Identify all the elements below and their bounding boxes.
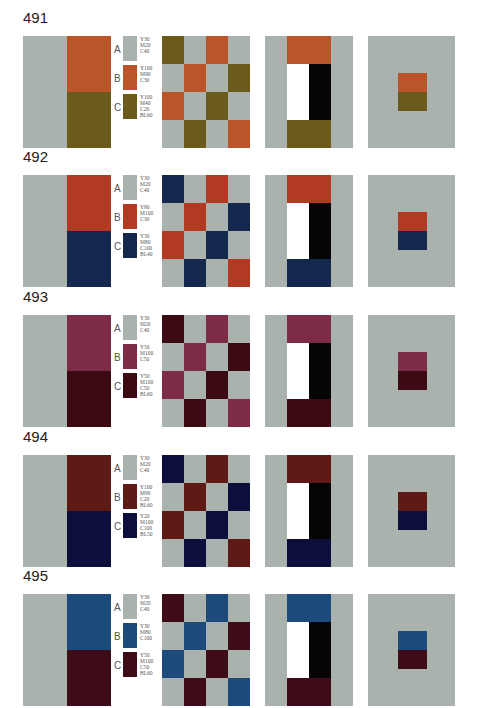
checker-cell-b <box>206 594 228 622</box>
black-block <box>309 343 331 399</box>
legend-row-c: C Y50 M100 C50 BL60 <box>114 652 162 680</box>
color-b-block <box>67 315 111 371</box>
checker-cell-a <box>184 92 206 120</box>
checker-cell-a <box>184 315 206 343</box>
legend-spec: Y100 M90 C20 BL60 <box>140 484 153 508</box>
color-c-block <box>67 511 111 567</box>
checker-cell-a <box>162 622 184 650</box>
legend-row-b: B Y30 M80 C100 <box>114 623 162 651</box>
legend-letter: A <box>114 44 122 55</box>
legend-swatch <box>123 484 137 509</box>
color-b-block <box>398 212 427 231</box>
color-b-block <box>287 455 331 483</box>
legend-letter: A <box>114 323 122 334</box>
checker-cell-c <box>206 511 228 539</box>
black-block <box>309 622 331 678</box>
checker-cell-a <box>228 650 250 678</box>
legend-letter: B <box>114 492 122 503</box>
legend-row-a: A Y30 M20 C40 <box>114 36 162 64</box>
checker-cell-c <box>206 650 228 678</box>
checker-cell-b <box>184 343 206 371</box>
checker-cell-a <box>184 175 206 203</box>
color-b-block <box>398 492 427 511</box>
legend-letter: B <box>114 212 122 223</box>
checker-cell-c <box>206 92 228 120</box>
checker-cell-a <box>162 539 184 567</box>
legend-spec: Y30 M20 C40 <box>140 36 150 54</box>
checker-cell-a <box>206 64 228 92</box>
checker-cell-b <box>228 259 250 287</box>
legend-row-b: B Y100 M90 C30 <box>114 65 162 93</box>
plate-number: 493 <box>23 289 48 305</box>
color-b-block <box>67 175 111 231</box>
center-panel <box>368 455 455 567</box>
white-block <box>287 343 309 399</box>
checker-cell-a <box>206 120 228 148</box>
legend-swatch <box>123 344 137 369</box>
checkerboard-panel <box>162 594 250 706</box>
black-block <box>309 203 331 259</box>
color-c-block <box>287 539 331 567</box>
legend-spec: Y30 M20 C40 <box>140 315 150 333</box>
split-panel <box>23 315 111 427</box>
checker-cell-b <box>206 455 228 483</box>
color-b-block <box>287 36 331 64</box>
checker-cell-c <box>184 120 206 148</box>
legend-row-a: A Y30 M20 C40 <box>114 455 162 483</box>
legend-row-c: C Y100 M40 C20 BL60 <box>114 94 162 122</box>
plate-number: 492 <box>23 149 48 165</box>
legend-letter: B <box>114 352 122 363</box>
center-panel <box>368 36 455 148</box>
frame-panel <box>265 594 353 706</box>
legend-swatch <box>123 315 137 340</box>
checker-cell-b <box>206 36 228 64</box>
color-c-block <box>398 650 427 669</box>
white-block <box>287 64 309 120</box>
checkerboard-panel <box>162 175 250 287</box>
checker-cell-a <box>184 36 206 64</box>
legend-letter: B <box>114 73 122 84</box>
checker-cell-b <box>184 203 206 231</box>
checker-cell-b <box>228 120 250 148</box>
legend-row-a: A Y30 M20 C40 <box>114 315 162 343</box>
black-block <box>309 483 331 539</box>
center-panel <box>368 315 455 427</box>
color-c-block <box>67 231 111 287</box>
checker-cell-a <box>162 678 184 706</box>
frame-panel <box>265 455 353 567</box>
color-b-block <box>287 594 331 622</box>
legend-spec: Y30 M20 C40 <box>140 455 150 473</box>
plate-section-495: 495 A Y30 M20 C40 B Y30 M80 C100 C Y50 M… <box>0 568 477 708</box>
checker-cell-a <box>184 455 206 483</box>
legend-letter: C <box>114 660 122 671</box>
frame-panel <box>265 175 353 287</box>
checker-cell-b <box>206 175 228 203</box>
checker-cell-c <box>162 455 184 483</box>
checker-cell-a <box>184 650 206 678</box>
checker-cell-c <box>162 594 184 622</box>
checkerboard-panel <box>162 455 250 567</box>
checker-cell-a <box>184 231 206 259</box>
checker-cell-c <box>184 399 206 427</box>
checker-cell-a <box>184 371 206 399</box>
color-c-block <box>287 120 331 148</box>
checker-cell-b <box>228 678 250 706</box>
checker-cell-b <box>228 399 250 427</box>
legend-spec: Y30 M80 C100 BL40 <box>140 233 153 257</box>
checker-cell-a <box>206 203 228 231</box>
color-c-block <box>287 678 331 706</box>
checker-cell-b <box>162 231 184 259</box>
legend-swatch <box>123 36 137 61</box>
checker-cell-c <box>184 539 206 567</box>
checker-cell-c <box>228 64 250 92</box>
checker-cell-c <box>228 483 250 511</box>
color-c-block <box>67 92 111 148</box>
plate-number: 494 <box>23 429 48 445</box>
color-b-block <box>398 352 427 371</box>
color-b-block <box>67 36 111 92</box>
white-block <box>287 483 309 539</box>
checker-cell-c <box>228 343 250 371</box>
checker-cell-a <box>228 371 250 399</box>
checker-cell-c <box>228 203 250 231</box>
legend-swatch <box>123 175 137 200</box>
